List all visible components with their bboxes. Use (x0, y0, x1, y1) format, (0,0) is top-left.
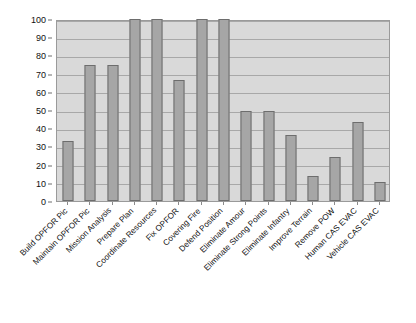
x-axis-tick-mark (89, 202, 90, 205)
x-axis-tick-mark (134, 202, 135, 205)
x-axis-tick-mark (357, 202, 358, 205)
x-axis-tick-mark (156, 202, 157, 205)
x-axis-tick-mark (201, 202, 202, 205)
x-axis-tick-mark (268, 202, 269, 205)
x-axis-tick-mark (290, 202, 291, 205)
x-axis-tick-mark (245, 202, 246, 205)
x-axis-tick-mark (67, 202, 68, 205)
x-axis: Build OPFOR PicMaintain OPFOR PicMission… (0, 0, 416, 323)
x-axis-tick-mark (223, 202, 224, 205)
x-axis-tick-mark (112, 202, 113, 205)
x-axis-tick-mark (334, 202, 335, 205)
x-axis-tick-mark (312, 202, 313, 205)
x-axis-tick-mark (178, 202, 179, 205)
bar-chart: 0102030405060708090100 Build OPFOR PicMa… (0, 0, 416, 323)
x-axis-tick-mark (379, 202, 380, 205)
